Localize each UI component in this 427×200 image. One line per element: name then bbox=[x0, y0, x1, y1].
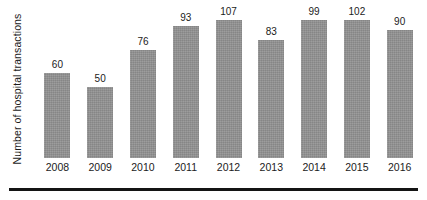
bar-rect bbox=[344, 20, 370, 158]
bar-rect bbox=[216, 20, 242, 158]
x-axis-tick-label: 2010 bbox=[122, 161, 165, 173]
bar-rect bbox=[301, 20, 327, 158]
x-axis-tick-label: 2009 bbox=[79, 161, 122, 173]
bar-group: 83 bbox=[250, 6, 293, 158]
bar-group: 93 bbox=[164, 6, 207, 158]
bar-rect bbox=[173, 26, 199, 158]
bar-group: 50 bbox=[79, 6, 122, 158]
bar-rect bbox=[44, 73, 70, 158]
bottom-rule bbox=[9, 188, 418, 191]
bar-rect bbox=[130, 50, 156, 158]
bar-value-label: 90 bbox=[394, 16, 405, 28]
bar-rect bbox=[258, 40, 284, 158]
y-axis-title-text: Number of hospital transactions bbox=[11, 14, 23, 165]
bar-group: 107 bbox=[207, 6, 250, 158]
x-axis-tick-label: 2014 bbox=[293, 161, 336, 173]
bar-value-label: 83 bbox=[266, 26, 277, 38]
x-axis-tick-label: 2015 bbox=[335, 161, 378, 173]
x-axis-tick-label: 2016 bbox=[378, 161, 421, 173]
bar-value-label: 60 bbox=[52, 59, 63, 71]
bar-group: 76 bbox=[122, 6, 165, 158]
x-axis-tick-label: 2011 bbox=[164, 161, 207, 173]
bar-group: 60 bbox=[36, 6, 79, 158]
bar-group: 90 bbox=[378, 6, 421, 158]
x-axis-labels: 2008 2009 2010 2011 2012 2013 2014 2015 … bbox=[36, 158, 421, 176]
bar-value-label: 99 bbox=[309, 6, 320, 18]
y-axis-title: Number of hospital transactions bbox=[0, 0, 34, 178]
x-axis-tick-label: 2013 bbox=[250, 161, 293, 173]
bar-value-label: 93 bbox=[180, 12, 191, 24]
x-axis-tick-label: 2012 bbox=[207, 161, 250, 173]
bar-rect bbox=[87, 87, 113, 158]
bar-value-label: 76 bbox=[137, 36, 148, 48]
bar-value-label: 102 bbox=[349, 6, 366, 18]
bar-group: 99 bbox=[293, 6, 336, 158]
bar-chart: Number of hospital transactions 60 50 76… bbox=[0, 0, 427, 200]
bar-rect bbox=[387, 30, 413, 158]
bar-value-label: 50 bbox=[95, 73, 106, 85]
bar-group: 102 bbox=[335, 6, 378, 158]
plot-area: 60 50 76 93 107 83 99 102 bbox=[36, 6, 421, 158]
x-axis-tick-label: 2008 bbox=[36, 161, 79, 173]
bar-value-label: 107 bbox=[220, 6, 237, 18]
